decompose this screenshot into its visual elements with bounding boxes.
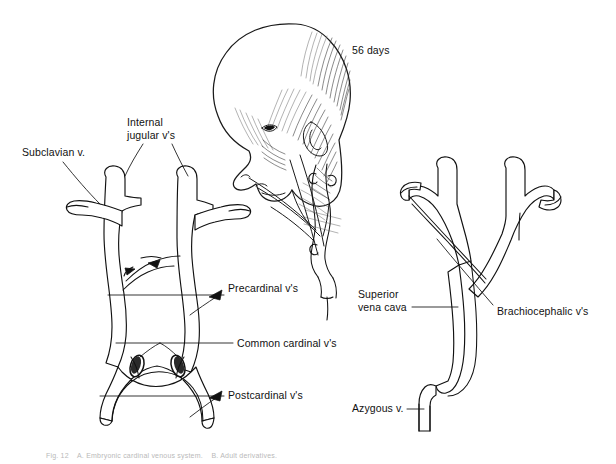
label-internal-jugular-veins: Internal jugular v's xyxy=(127,116,175,141)
label-postcardinal-veins: Postcardinal v's xyxy=(228,389,303,402)
anatomical-figure: Subclavian v. Internal jugular v's Preca… xyxy=(0,0,616,464)
figure-caption: Fig. 12 A. Embryonic cardinal venous sys… xyxy=(46,452,277,459)
label-stage-56-days: 56 days xyxy=(352,44,389,57)
label-superior-vena-cava: Superior vena cava xyxy=(358,288,407,313)
left-venous-diagram xyxy=(66,166,250,428)
label-azygous-vein: Azygous v. xyxy=(352,402,404,415)
label-brachiocephalic-veins: Brachiocephalic v's xyxy=(497,305,588,318)
label-precardinal-veins: Precardinal v's xyxy=(228,282,298,295)
embryo-head-group xyxy=(213,24,350,320)
leader-subclavian xyxy=(63,162,100,204)
leader-common-cardinal-branch-right xyxy=(160,343,178,357)
leader-internal-jugular-left xyxy=(125,144,143,176)
label-common-cardinal-veins: Common cardinal v's xyxy=(237,337,337,350)
right-venous-diagram xyxy=(400,157,561,431)
leader-common-cardinal-branch-left xyxy=(140,343,160,357)
figure-artwork xyxy=(0,0,616,464)
label-subclavian-vein: Subclavian v. xyxy=(22,146,85,159)
